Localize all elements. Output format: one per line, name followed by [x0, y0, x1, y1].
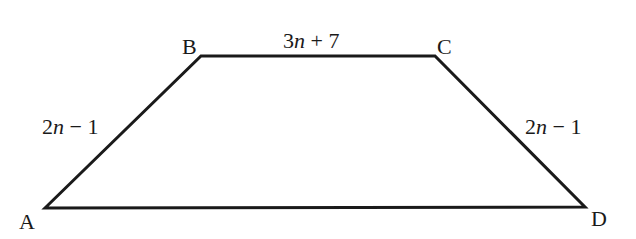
side-bc-coef: 3: [283, 28, 294, 53]
vertex-label-b: B: [182, 36, 197, 58]
side-label-ab: 2n − 1: [42, 116, 98, 138]
side-label-cd: 2n − 1: [525, 116, 581, 138]
side-ab-var: n: [53, 114, 64, 139]
side-cd-rest: − 1: [547, 114, 581, 139]
vertex-label-c: C: [437, 36, 452, 58]
side-cd-var: n: [536, 114, 547, 139]
side-ab-rest: − 1: [64, 114, 98, 139]
vertex-label-a: A: [19, 211, 35, 233]
side-bc-var: n: [294, 28, 305, 53]
side-bc-rest: + 7: [305, 28, 339, 53]
side-label-bc: 3n + 7: [283, 30, 339, 52]
side-cd-coef: 2: [525, 114, 536, 139]
side-ab-coef: 2: [42, 114, 53, 139]
trapezoid-abcd: [45, 56, 585, 208]
vertex-label-d: D: [591, 208, 607, 230]
